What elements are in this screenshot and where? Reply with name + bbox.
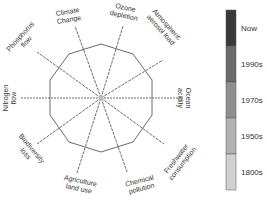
legend-swatch [226,82,236,118]
legend-label: 1970s [241,96,263,105]
axis-label: Nitrogenflow [2,85,17,112]
axis-line [37,98,101,144]
axis-line [75,26,101,98]
legend: Now1990s1970s1950s1800s [226,10,263,190]
axis-label: ClimateChange [55,6,82,26]
axis-label: Atmosphericaerosol load [145,8,183,47]
axis-line [101,60,163,98]
axis-line [101,98,164,144]
legend-label: 1950s [241,132,263,141]
axis-label: Agricultureland use [62,174,98,196]
legend-label: Now [241,24,257,33]
axis-label: Phosphorusflow [5,20,41,58]
legend-swatch [226,46,236,82]
axis-label: Oceanacidity [176,88,192,109]
legend-swatch [226,154,236,190]
axis-label: Ozonedepletion [109,1,140,23]
axis-label: Biodiversityloss [12,132,47,169]
legend-swatch [226,10,236,46]
axis-label: Freshwaterconsumption [161,141,198,182]
center-point [99,96,104,101]
legend-label: 1990s [241,60,263,69]
legend-label: 1800s [241,168,263,177]
axis-line [101,26,123,98]
planetary-boundaries-radar: ClimateChangeOzonedepletionAtmosphericae… [0,0,267,203]
radar-axes [20,26,183,173]
legend-swatch [226,118,236,154]
axis-line [77,98,101,173]
axis-line [101,98,127,172]
axis-label: Chemicalpollution [124,173,157,196]
axis-line [37,52,101,98]
